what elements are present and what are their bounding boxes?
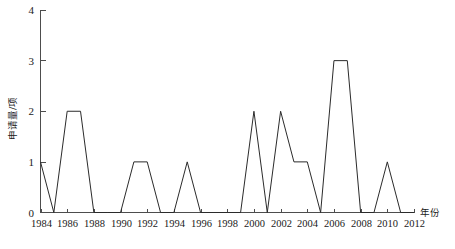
x-tick-label-2004: 2004 [297,218,319,229]
x-axis-tick-labels: 1984198619881990199219941996199820002002… [31,218,425,229]
x-tick-label-2000: 2000 [244,218,265,229]
x-tick-label-1996: 1996 [191,218,212,229]
x-tick-label-1988: 1988 [84,218,105,229]
y-axis-ticks [41,10,46,213]
data-series-line [41,61,415,213]
x-tick-label-2006: 2006 [324,218,345,229]
y-tick-label-4: 4 [29,4,35,16]
line-chart: 0 1 2 3 4 申请量/项 198419861988199019921994… [0,0,455,249]
y-tick-label-0: 0 [29,207,35,219]
x-tick-label-1998: 1998 [217,218,238,229]
x-tick-label-2002: 2002 [271,218,292,229]
chart-canvas: 0 1 2 3 4 申请量/项 198419861988199019921994… [0,0,455,249]
y-axis-title: 申请量/项 [7,97,18,140]
y-tick-label-2: 2 [29,105,35,117]
x-tick-label-2010: 2010 [377,218,398,229]
x-axis-title: 年份 [420,207,440,218]
x-tick-label-1994: 1994 [164,218,186,229]
x-tick-label-1990: 1990 [111,218,132,229]
x-tick-label-1992: 1992 [137,218,158,229]
x-tick-label-1986: 1986 [57,218,78,229]
y-tick-label-1: 1 [29,156,35,168]
y-tick-label-3: 3 [29,55,35,67]
x-tick-label-2008: 2008 [351,218,372,229]
x-tick-label-1984: 1984 [31,218,53,229]
x-axis-ticks [42,209,415,213]
x-tick-label-2012: 2012 [404,218,425,229]
